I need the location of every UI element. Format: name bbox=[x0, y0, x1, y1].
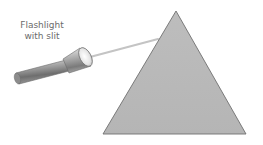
prism-icon bbox=[103, 11, 246, 134]
flashlight-label: Flashlight with slit bbox=[14, 20, 70, 42]
flashlight-icon bbox=[13, 45, 95, 84]
flashlight-label-line2: with slit bbox=[14, 31, 70, 42]
light-beam bbox=[90, 39, 158, 57]
flashlight-label-line1: Flashlight bbox=[14, 20, 70, 31]
